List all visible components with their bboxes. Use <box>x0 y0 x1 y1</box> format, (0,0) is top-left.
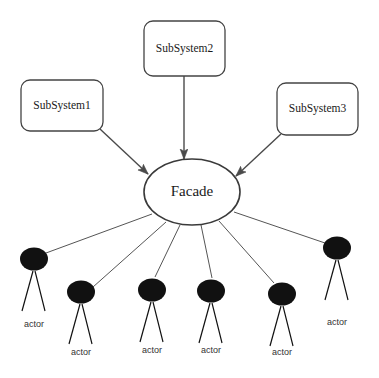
arrow-subsystem1-facade <box>100 129 148 174</box>
actor-head <box>197 280 225 303</box>
actor-leg-left <box>199 303 210 343</box>
actor-leg-right <box>35 271 45 311</box>
actor-label: actor <box>272 347 292 357</box>
assoc-facade-actor4 <box>201 225 212 278</box>
actor-nodes-group: actoractoractoractoractoractor <box>20 237 351 358</box>
actor-head <box>20 248 48 271</box>
actor-leg-left <box>69 304 80 344</box>
assoc-facade-actor3 <box>155 225 180 277</box>
actor-leg-left <box>325 260 336 300</box>
subsystem-node-3[interactable]: SubSystem3 <box>277 83 358 135</box>
subsystem-node-2[interactable]: SubSystem2 <box>144 21 225 76</box>
subsystem-node-1[interactable]: SubSystem1 <box>21 80 103 131</box>
diagram-canvas: SubSystem1SubSystem2SubSystem3 Facade ac… <box>0 0 379 378</box>
actor-head <box>323 237 351 260</box>
actor-node-5[interactable]: actor <box>268 283 296 358</box>
actor-leg-left <box>270 306 281 346</box>
facade-label: Facade <box>171 183 214 199</box>
subsystem-label: SubSystem2 <box>156 42 214 55</box>
actor-label: actor <box>71 347 91 357</box>
actor-head <box>268 283 296 306</box>
facade-node[interactable]: Facade <box>144 159 240 225</box>
assoc-facade-actor1 <box>46 214 152 253</box>
actor-label: actor <box>327 317 347 327</box>
subsystem-label: SubSystem1 <box>33 99 91 112</box>
subsystem-label: SubSystem3 <box>289 102 347 115</box>
arrow-subsystem3-facade <box>236 134 281 176</box>
facade-node-group: Facade <box>144 159 240 225</box>
actor-leg-right <box>153 302 163 342</box>
actor-node-2[interactable]: actor <box>67 281 95 358</box>
actor-leg-right <box>283 306 293 346</box>
actor-leg-right <box>212 303 222 343</box>
actor-label: actor <box>201 345 221 355</box>
actor-label: actor <box>142 345 162 355</box>
actor-leg-left <box>22 271 33 311</box>
assoc-facade-actor6 <box>234 212 325 243</box>
actor-node-4[interactable]: actor <box>197 280 225 356</box>
actor-node-6[interactable]: actor <box>323 237 351 328</box>
actor-leg-right <box>338 260 348 300</box>
actor-leg-right <box>82 304 92 344</box>
actor-label: actor <box>24 319 44 329</box>
actor-node-1[interactable]: actor <box>20 248 48 330</box>
actor-leg-left <box>140 302 151 342</box>
assoc-facade-actor5 <box>219 221 274 283</box>
actor-head <box>67 281 95 304</box>
actor-node-3[interactable]: actor <box>138 279 166 356</box>
subsystem-nodes-group: SubSystem1SubSystem2SubSystem3 <box>21 21 358 135</box>
facade-pattern-diagram: SubSystem1SubSystem2SubSystem3 Facade ac… <box>0 0 379 378</box>
actor-head <box>138 279 166 302</box>
